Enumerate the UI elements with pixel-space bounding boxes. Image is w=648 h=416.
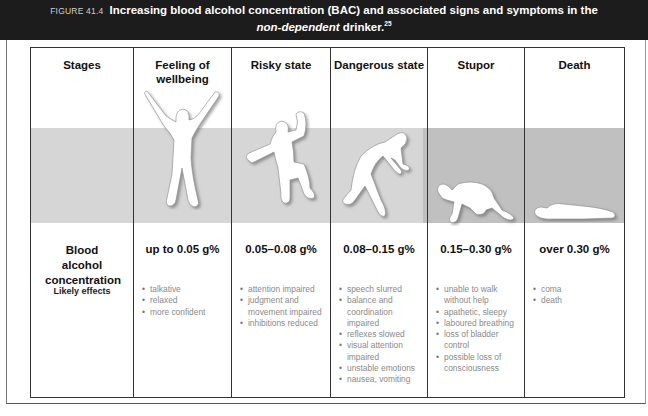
effect-item: attention impaired bbox=[240, 284, 326, 295]
bac-value: 0.15–0.30 g% bbox=[428, 243, 524, 255]
effect-item: judgment and movement impaired bbox=[240, 295, 326, 318]
stage-title: Dangerous state bbox=[331, 58, 427, 72]
effect-item: loss of bladder control bbox=[436, 329, 520, 352]
effect-item: unstable emotions bbox=[339, 363, 423, 374]
figure-title: Increasing blood alcohol concentration (… bbox=[110, 4, 598, 16]
effect-item: laboured breathing bbox=[436, 318, 520, 329]
bac-value: over 0.30 g% bbox=[525, 243, 624, 255]
staggering-figure-icon bbox=[244, 108, 320, 208]
column-divider bbox=[330, 48, 331, 397]
figure-title-italic: non-dependent bbox=[256, 21, 339, 33]
stages-label: Stages bbox=[31, 58, 133, 72]
label-column: Stages Blood alcohol concentration Likel… bbox=[31, 48, 133, 397]
stage-column-stupor: Stupor 0.15–0.30 g% unable to walk witho… bbox=[428, 48, 524, 397]
effect-item: reflexes slowed bbox=[339, 329, 423, 340]
reference-superscript: 25 bbox=[384, 20, 391, 27]
effect-item: balance and coordination impaired bbox=[339, 295, 423, 329]
column-divider bbox=[133, 48, 134, 397]
stage-title: Risky state bbox=[232, 58, 330, 72]
column-divider bbox=[427, 48, 428, 397]
stage-title: Death bbox=[525, 58, 624, 72]
bac-value: 0.08–0.15 g% bbox=[331, 243, 427, 255]
column-divider bbox=[231, 48, 232, 397]
effects-list: attention impaired judgment and movement… bbox=[240, 284, 326, 329]
figure-title-line1: FIGURE 41.4 Increasing blood alcohol con… bbox=[0, 4, 648, 16]
figure-number: FIGURE 41.4 bbox=[50, 6, 103, 16]
effect-item: inhibitions reduced bbox=[240, 318, 326, 329]
lying-figure-icon bbox=[533, 198, 619, 222]
figure-header: FIGURE 41.4 Increasing blood alcohol con… bbox=[0, 0, 648, 40]
stage-title: Stupor bbox=[428, 58, 524, 72]
effects-list: unable to walk without help apathetic, s… bbox=[436, 284, 520, 374]
effects-list: talkative relaxed more confident bbox=[142, 284, 227, 318]
likely-effects-label: Likely effects bbox=[31, 286, 133, 296]
effect-item: nausea, vomiting bbox=[339, 374, 423, 385]
effects-list: speech slurred balance and coordination … bbox=[339, 284, 423, 386]
figure-title-line2: non-dependent drinker.25 bbox=[0, 20, 648, 33]
crawling-figure-icon bbox=[436, 178, 520, 226]
effect-item: relaxed bbox=[142, 295, 227, 306]
bac-value: up to 0.05 g% bbox=[134, 243, 231, 255]
effect-item: possible loss of consciousness bbox=[436, 352, 520, 375]
stage-column-risky: Risky state 0.05–0.08 g% attention impai… bbox=[232, 48, 330, 397]
figure-title-rest: drinker. bbox=[340, 21, 385, 33]
hunched-figure-icon bbox=[341, 130, 423, 220]
effects-list: coma death bbox=[533, 284, 620, 307]
standing-arms-raised-icon bbox=[142, 88, 224, 210]
bac-label: Blood alcohol concentration bbox=[31, 243, 133, 288]
effect-item: more confident bbox=[142, 307, 227, 318]
stage-column-dangerous: Dangerous state 0.08–0.15 g% speech slur… bbox=[331, 48, 427, 397]
effect-item: speech slurred bbox=[339, 284, 423, 295]
column-divider bbox=[524, 48, 525, 397]
effect-item: death bbox=[533, 295, 620, 306]
bac-value: 0.05–0.08 g% bbox=[232, 243, 330, 255]
bac-stages-table: Stages Blood alcohol concentration Likel… bbox=[30, 47, 625, 398]
effect-item: apathetic, sleepy bbox=[436, 307, 520, 318]
effect-item: unable to walk without help bbox=[436, 284, 520, 307]
stage-column-wellbeing: Feeling of wellbeing up to 0.05 g% talka… bbox=[134, 48, 231, 397]
effect-item: talkative bbox=[142, 284, 227, 295]
stage-title: Feeling of wellbeing bbox=[134, 58, 231, 86]
stage-column-death: Death over 0.30 g% coma death bbox=[525, 48, 624, 397]
effect-item: coma bbox=[533, 284, 620, 295]
effect-item: visual attention impaired bbox=[339, 340, 423, 363]
